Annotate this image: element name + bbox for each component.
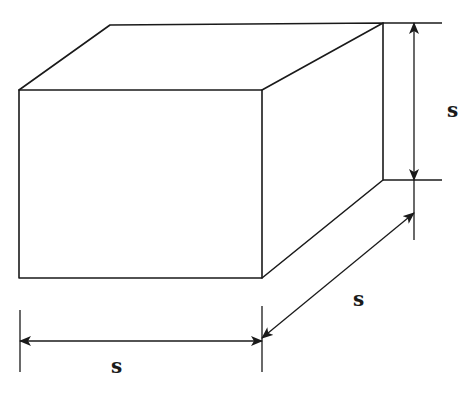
- extension-lines: [20, 23, 442, 372]
- depth-label: s: [353, 287, 364, 311]
- cube-diagram: s s s: [0, 0, 472, 395]
- height-label: s: [447, 98, 458, 122]
- cube: [19, 23, 383, 278]
- depth-dimension-arrow: [262, 213, 414, 338]
- width-label: s: [111, 354, 122, 378]
- front-face: [19, 90, 262, 278]
- right-face-edges: [262, 23, 383, 278]
- top-face-edges: [19, 23, 383, 90]
